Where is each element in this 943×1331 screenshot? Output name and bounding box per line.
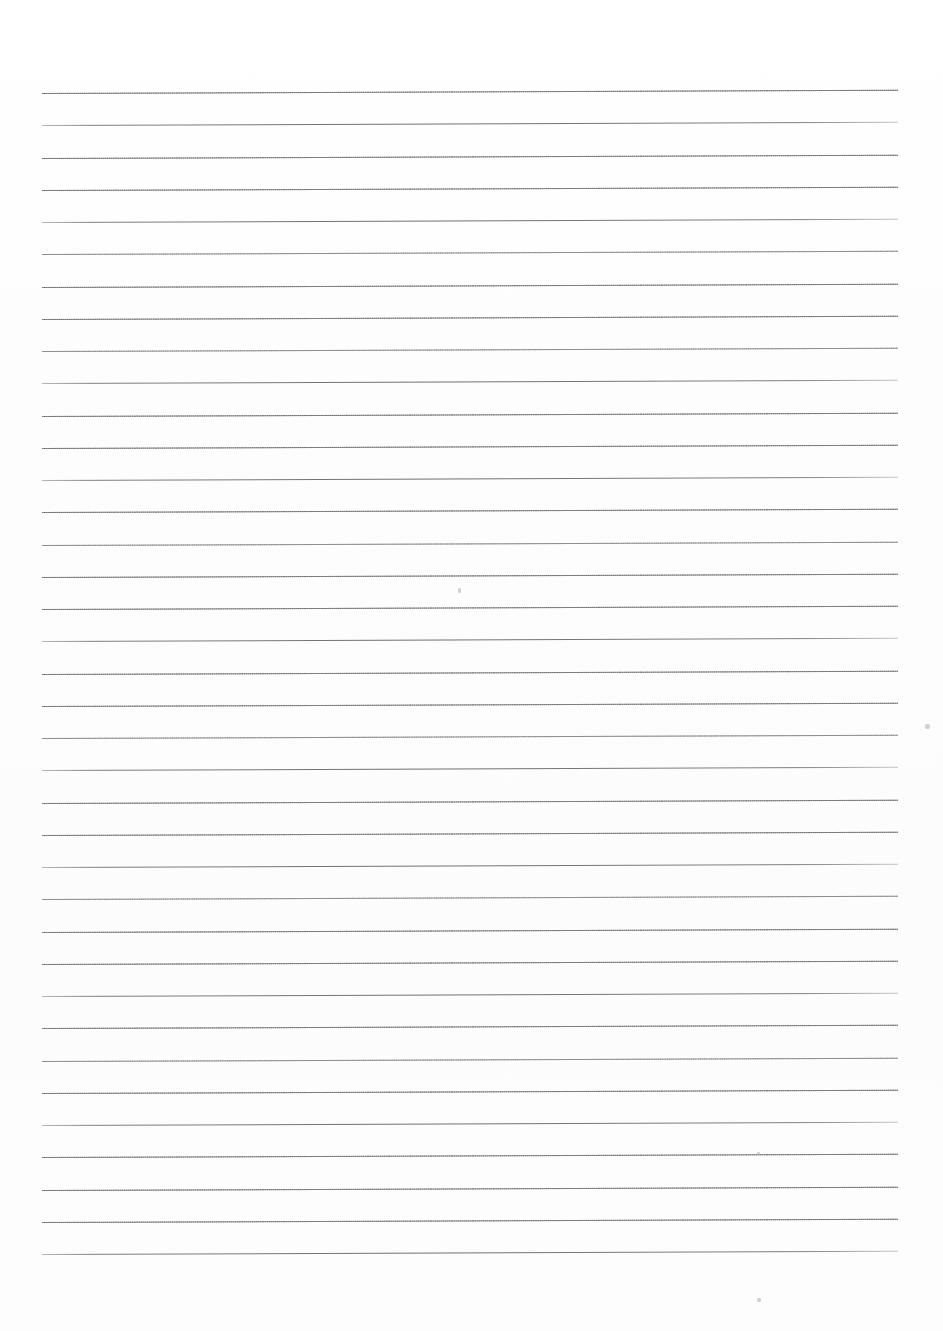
rule-line [42,928,898,932]
rule-line [42,702,898,706]
rule-line [42,348,898,352]
rule-line [42,831,898,835]
rule-line [42,1251,898,1256]
rule-line [42,1122,898,1127]
rule-line [42,670,898,674]
rule-line [42,960,898,964]
rule-line [42,412,898,416]
rule-line [42,1057,898,1061]
rule-line [42,541,898,545]
rule-line [42,767,898,772]
rule-line [42,896,898,900]
rule-line [42,1186,898,1190]
scanned-page [0,0,943,1331]
rule-line [42,122,898,127]
rule-line [42,90,898,94]
rule-line [42,509,898,513]
rule-line [42,315,898,319]
rule-line [42,1154,898,1158]
rule-line [42,1025,898,1029]
rule-line [42,477,898,482]
rule-line [42,864,898,869]
rule-line [42,219,898,224]
rule-line [42,799,898,803]
rule-line [42,606,898,610]
rule-line [42,283,898,287]
rule-line [42,735,898,739]
rule-line [42,638,898,643]
rule-line [42,573,898,577]
rule-line [42,186,898,190]
rule-line [42,444,898,448]
rule-line [42,154,898,158]
rule-line [42,251,898,255]
rule-line [42,380,898,385]
rule-line [42,1089,898,1093]
rule-line [42,1218,898,1222]
ruled-lines-layer [0,0,943,1331]
rule-line [42,993,898,998]
